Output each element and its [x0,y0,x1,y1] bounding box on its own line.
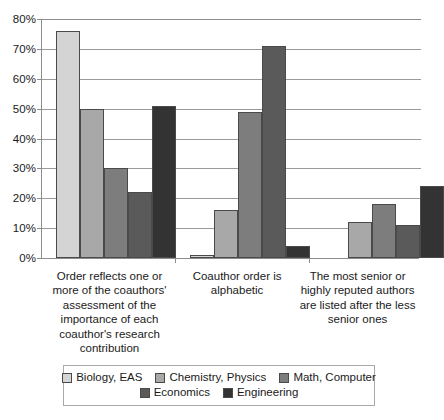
bar [80,109,104,258]
bar [372,204,396,258]
legend-row: EconomicsEngineering [70,385,368,400]
legend-label: Chemistry, Physics [169,370,266,385]
y-axis-tick-label: 40% [13,133,36,145]
y-axis-tick-mark [37,19,42,20]
plot-area [41,19,419,259]
y-axis-tick-label: 30% [13,162,36,174]
bar [214,210,238,258]
plot-wrapper: 0%10%20%30%40%50%60%70%80% [0,0,423,266]
legend-swatch-icon [223,388,233,398]
bar-group [310,19,444,258]
y-axis-tick-label: 50% [13,103,36,115]
legend-swatch-icon [62,373,72,383]
legend-label: Math, Computer [293,370,375,385]
bar [56,31,80,258]
bar [152,106,176,258]
legend-item[interactable]: Chemistry, Physics [155,370,266,385]
legend-swatch-icon [140,388,150,398]
y-axis-tick-label: 80% [13,13,36,25]
y-axis-tick-mark [37,79,42,80]
bar-group [176,19,310,258]
y-axis-tick-label: 20% [13,192,36,204]
y-axis-tick-label: 60% [13,73,36,85]
y-axis-tick-mark [37,228,42,229]
category-label: Coauthor order is alphabetic [178,266,296,358]
bar [104,168,128,258]
y-axis-tick-mark [37,168,42,169]
legend-item[interactable]: Economics [140,385,210,400]
category-tick-mark [175,258,176,263]
legend-item[interactable]: Math, Computer [279,370,375,385]
y-axis-tick-mark [37,139,42,140]
bar [190,255,214,258]
legend-item[interactable]: Engineering [223,385,298,400]
legend-label: Engineering [237,385,298,400]
bar [262,46,286,258]
category-axis-labels: Order reflects one or more of the coauth… [41,266,419,358]
category-label: Order reflects one or more of the coauth… [41,266,178,358]
category-tick-mark [309,258,310,263]
legend-swatch-icon [279,373,289,383]
legend-label: Biology, EAS [76,370,142,385]
bar [238,112,262,258]
y-axis-tick-mark [37,49,42,50]
y-axis-tick-label: 0% [19,252,36,264]
y-axis-tick-mark [37,198,42,199]
y-axis-tick-mark [37,258,42,259]
y-axis: 0%10%20%30%40%50%60%70%80% [0,0,40,266]
legend-row: Biology, EASChemistry, PhysicsMath, Comp… [70,370,368,385]
legend-swatch-icon [155,373,165,383]
bar [348,222,372,258]
legend-label: Economics [154,385,210,400]
bar-group [42,19,176,258]
y-axis-tick-label: 70% [13,43,36,55]
y-axis-tick-label: 10% [13,222,36,234]
legend-item[interactable]: Biology, EAS [62,370,142,385]
legend: Biology, EASChemistry, PhysicsMath, Comp… [63,365,375,406]
bar [420,186,444,258]
bar [128,192,152,258]
category-label: The most senior or highly reputed author… [296,266,419,358]
bar-groups [42,19,419,258]
y-axis-tick-mark [37,109,42,110]
bar [286,246,310,258]
bar [396,225,420,258]
